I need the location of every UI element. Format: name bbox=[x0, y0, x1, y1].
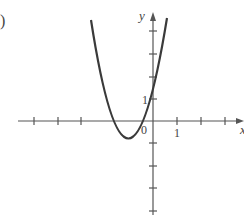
y-tick-label-1: 1 bbox=[142, 93, 148, 107]
x-axis-label: x bbox=[239, 122, 244, 137]
origin-label: 0 bbox=[141, 123, 147, 137]
x-tick-label-1: 1 bbox=[174, 126, 180, 140]
parabola-graph: ) y x 0 1 1 bbox=[0, 0, 244, 216]
figure-label: ) bbox=[0, 12, 5, 30]
y-axis-label: y bbox=[137, 8, 145, 23]
y-axis-arrow-icon bbox=[150, 12, 156, 21]
